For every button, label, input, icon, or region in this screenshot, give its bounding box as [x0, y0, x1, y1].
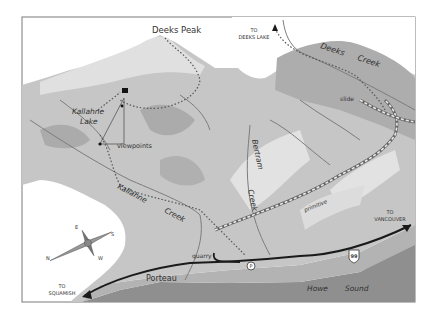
- to-vancouver-label-2: VANCOUVER: [374, 216, 406, 222]
- deeks-peak-label: Deeks Peak: [152, 25, 201, 35]
- to-vancouver-label: TO: [386, 209, 394, 215]
- parking-label: P: [249, 263, 252, 269]
- howe-sound-label: Howe: [307, 284, 328, 293]
- highway-99-shield: 99: [349, 250, 359, 263]
- trail-map: 99 P E S W N Deeks Peak TO DEEKS LAKE De…: [0, 0, 436, 324]
- viewpoint-marker-icon: [121, 105, 124, 108]
- to-squamish-label: TO: [58, 283, 66, 289]
- viewpoints-label: viewpoints: [117, 142, 153, 150]
- parking-icon: P: [247, 262, 255, 270]
- highway-number-label: 99: [351, 253, 358, 259]
- compass-west-label: W: [98, 255, 103, 261]
- quarry-label: quarry: [192, 252, 212, 260]
- to-squamish-label-2: SQUAMISH: [49, 290, 76, 296]
- viewpoint-marker-icon: [98, 142, 101, 145]
- howe-sound-label-2: Sound: [345, 284, 369, 293]
- porteau-label: Porteau: [146, 274, 177, 283]
- summit-flag-icon: [122, 88, 128, 93]
- compass-north-label: N: [46, 255, 50, 261]
- compass-east-label: E: [75, 224, 78, 230]
- kallahne-lake-label-2: Lake: [80, 117, 98, 126]
- kallahne-lake-label: Kallahne: [72, 107, 105, 116]
- to-deeks-lake-label: TO: [250, 27, 258, 33]
- compass-south-label: S: [111, 231, 114, 237]
- to-deeks-lake-label-2: DEEKS LAKE: [239, 34, 270, 40]
- slide-label: slide: [340, 95, 354, 102]
